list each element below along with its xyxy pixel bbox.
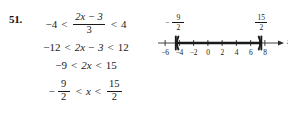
step3-right-value: 15 bbox=[106, 59, 117, 71]
step2-relation-2: < bbox=[108, 41, 114, 53]
step4-left-denominator: 2 bbox=[59, 92, 68, 103]
step1-left-value: −4 bbox=[45, 18, 57, 30]
solution-step-1: −4 < 2x − 3 3 < 4 bbox=[33, 11, 139, 37]
step4-relation-1: < bbox=[76, 85, 82, 97]
step3-left-value: −9 bbox=[55, 59, 67, 71]
step2-left-value: −12 bbox=[43, 41, 60, 53]
step3-relation-1: < bbox=[71, 59, 77, 71]
step1-fraction-denominator: 3 bbox=[84, 25, 93, 36]
worked-example-figure: 51. −4 < 2x − 3 3 < 4 −12 < 2x − 3 < 12 … bbox=[0, 0, 288, 116]
solution-steps: 51. −4 < 2x − 3 3 < 4 −12 < 2x − 3 < 12 … bbox=[0, 0, 148, 116]
step3-relation-2: < bbox=[96, 59, 102, 71]
step1-middle-fraction: 2x − 3 3 bbox=[73, 12, 105, 35]
step3-middle-expression: 2x bbox=[81, 59, 91, 71]
axis-arrowhead bbox=[278, 40, 284, 45]
step4-relation-2: < bbox=[95, 85, 101, 97]
step2-right-value: 12 bbox=[118, 41, 129, 53]
step1-right-value: 4 bbox=[121, 18, 127, 30]
step4-right-fraction: 15 2 bbox=[107, 79, 122, 102]
step4-left-numerator: 9 bbox=[59, 79, 68, 90]
step4-left-fraction: 9 2 bbox=[58, 79, 70, 102]
solution-step-2: −12 < 2x − 3 < 12 bbox=[30, 39, 142, 54]
step1-fraction-numerator: 2x − 3 bbox=[73, 12, 105, 23]
step4-right-denominator: 2 bbox=[110, 92, 119, 103]
number-line-graph: − 9 2 15 2 x −6−4−202468 bbox=[148, 0, 288, 116]
step4-middle-variable: x bbox=[86, 85, 91, 97]
step4-right-numerator: 15 bbox=[107, 79, 122, 90]
step1-relation-2: < bbox=[111, 18, 117, 30]
axis-tick-label: 8 bbox=[255, 48, 275, 57]
solution-step-3: −9 < 2x < 15 bbox=[30, 57, 142, 72]
step4-left-negative-fraction: − 9 2 bbox=[48, 79, 71, 102]
problem-number: 51. bbox=[9, 13, 22, 25]
number-line-canvas bbox=[148, 0, 288, 116]
step2-middle-expression: 2x − 3 bbox=[75, 41, 104, 53]
step1-relation-1: < bbox=[61, 18, 67, 30]
solution-step-4: − 9 2 < x < 15 2 bbox=[30, 76, 142, 106]
step4-left-sign: − bbox=[48, 85, 54, 97]
step2-relation-1: < bbox=[64, 41, 70, 53]
